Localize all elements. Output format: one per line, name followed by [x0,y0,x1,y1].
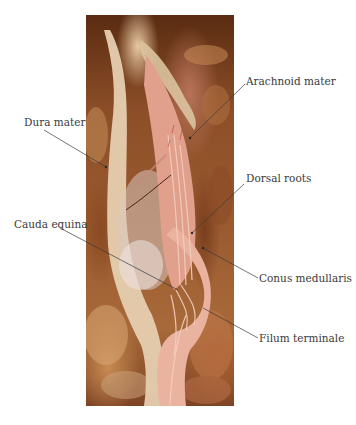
label-conus-medullaris: Conus medullaris [259,272,352,284]
label-filum-terminale: Filum terminale [259,332,344,344]
photo-illustration [86,15,234,406]
spinal-cord-photo [86,15,234,406]
label-arachnoid-mater: Arachnoid mater [246,75,336,87]
label-dura-mater: Dura mater [24,116,85,128]
label-dorsal-roots: Dorsal roots [246,172,311,184]
label-cauda-equina: Cauda equina [14,218,87,230]
anatomy-figure: Arachnoid mater Dura mater Dorsal roots … [0,0,356,425]
